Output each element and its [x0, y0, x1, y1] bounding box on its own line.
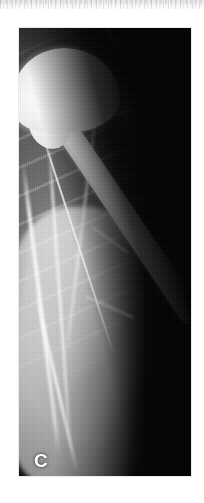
axilla-dark-field [19, 28, 191, 476]
figure-page: C [0, 0, 204, 503]
panel-letter: C [34, 451, 48, 470]
radiograph-image: C [19, 28, 191, 476]
text-bleed-band [0, 0, 204, 9]
radiograph-panel-c[interactable]: C [19, 28, 191, 476]
